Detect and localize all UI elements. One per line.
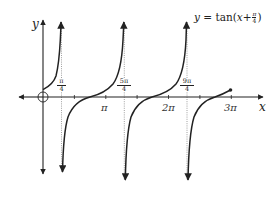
x-axis-label: x bbox=[259, 101, 266, 113]
tick-label-pi: π bbox=[101, 103, 108, 113]
chart-canvas bbox=[0, 0, 280, 200]
tick-label-3pi: 3π bbox=[224, 103, 237, 113]
tick-label-2pi: 2π bbox=[162, 103, 175, 113]
title-plus: + bbox=[243, 11, 252, 23]
end-point-dot bbox=[229, 88, 233, 92]
title-close: ) bbox=[257, 11, 261, 23]
title-eq: = tan( bbox=[200, 11, 237, 23]
asymptote-label-9pi-over-4: 9π 4 bbox=[180, 78, 194, 92]
curve-branch-3 bbox=[125, 22, 186, 180]
chart-title: y = tan(x+π4) bbox=[194, 11, 262, 24]
asymptote-label-pi-over-4: π 4 bbox=[57, 78, 66, 92]
y-axis-label: y bbox=[32, 18, 39, 30]
title-fraction: π4 bbox=[252, 11, 256, 24]
asymptote-label-5pi-over-4: 5π 4 bbox=[117, 78, 131, 92]
